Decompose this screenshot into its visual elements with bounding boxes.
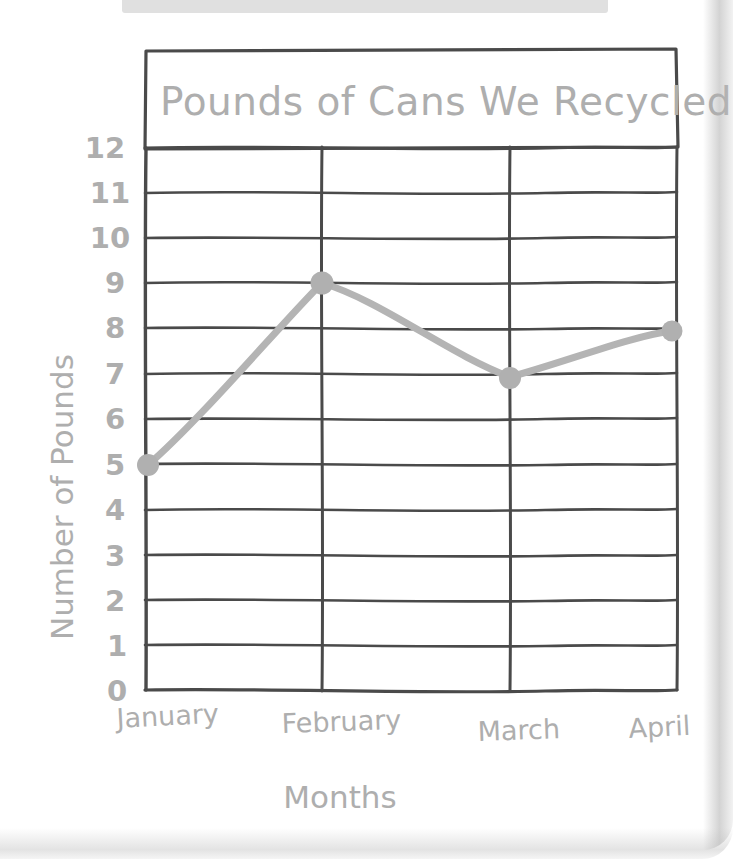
gridline-4	[145, 509, 677, 511]
y-tick-7: 7	[105, 357, 125, 391]
y-tick-11: 11	[90, 176, 130, 210]
y-tick-8: 8	[105, 311, 125, 345]
y-tick-6: 6	[105, 402, 125, 436]
line-chart: Pounds of Cans We Recycled 12	[0, 0, 733, 859]
gridline-6	[145, 418, 677, 420]
gridline-march	[509, 147, 510, 690]
x-tick-january: January	[114, 698, 220, 734]
data-point-february[interactable]	[311, 272, 334, 295]
y-axis-tick-labels: 12 11 10 9 8 7 6 5 4 3 2 1 0	[85, 131, 130, 708]
yaxis-line	[145, 148, 146, 690]
gridline-5	[145, 464, 677, 466]
gridline-7	[145, 373, 677, 375]
y-axis-label: Number of Pounds	[44, 354, 80, 640]
gridline-1	[145, 645, 677, 647]
gridline-3	[145, 555, 677, 557]
data-point-march[interactable]	[499, 367, 521, 389]
chart-title: Pounds of Cans We Recycled	[160, 79, 732, 124]
x-axis-tick-labels: January February March April	[114, 698, 691, 747]
gridline-11	[145, 192, 677, 194]
y-tick-1: 1	[107, 629, 127, 663]
y-tick-3: 3	[105, 539, 125, 573]
x-axis-label: Months	[283, 779, 396, 815]
y-tick-12: 12	[85, 131, 125, 165]
x-tick-april: April	[628, 710, 691, 744]
x-tick-february: February	[281, 704, 402, 739]
x-tick-march: March	[477, 713, 560, 747]
gridline-12	[145, 147, 677, 149]
gridline-9	[145, 282, 677, 284]
data-point-january[interactable]	[137, 454, 159, 476]
gridline-0-xaxis	[145, 690, 677, 692]
gridline-2	[145, 600, 677, 602]
gridline-april-right-border	[676, 147, 677, 690]
y-tick-9: 9	[105, 266, 125, 300]
plot-grid	[145, 147, 678, 692]
y-tick-4: 4	[105, 493, 125, 527]
gridline-10	[145, 237, 677, 239]
data-point-april[interactable]	[662, 321, 683, 342]
y-tick-5: 5	[105, 448, 125, 482]
screenshot-root: Pounds of Cans We Recycled 12	[0, 0, 733, 859]
y-tick-2: 2	[105, 584, 125, 618]
gridline-february	[321, 147, 322, 691]
y-tick-10: 10	[90, 221, 130, 255]
